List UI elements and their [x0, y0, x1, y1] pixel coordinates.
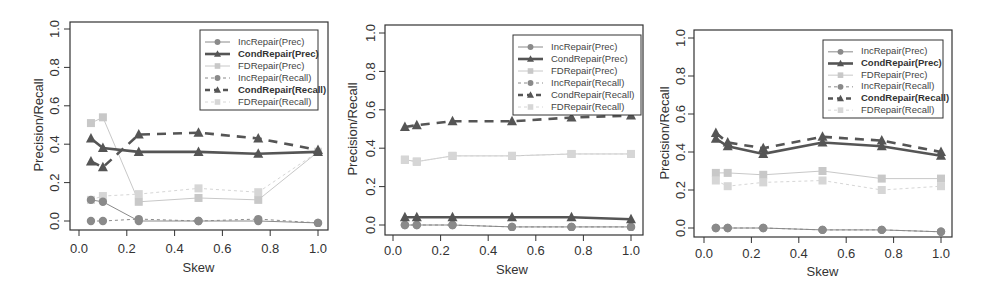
- data-point: [314, 219, 322, 227]
- chart-panel-2: 0.00.20.40.60.81.0Precision/Recall0.00.2…: [330, 0, 660, 296]
- legend-marker-icon: [838, 49, 844, 55]
- series-fdrepair-recall: [87, 148, 322, 204]
- data-point: [759, 178, 767, 186]
- data-point: [724, 224, 732, 232]
- x-tick-label: 0.4: [479, 243, 497, 258]
- legend-marker-icon: [528, 104, 534, 110]
- series-line: [716, 228, 941, 232]
- y-tick-label: 0.4: [47, 135, 62, 153]
- legend-label: FDRepair(Recall): [551, 101, 624, 112]
- data-point: [819, 167, 827, 175]
- x-tick-label: 0.8: [574, 243, 592, 258]
- y-tick-label: 0.6: [47, 97, 62, 115]
- data-point: [712, 224, 720, 232]
- legend-label: CondRepair(Prec): [238, 48, 319, 59]
- y-axis: 0.00.20.40.60.81.0Precision/Recall: [31, 20, 70, 230]
- data-point: [195, 184, 203, 192]
- data-point: [194, 217, 202, 225]
- y-tick-label: 0.6: [673, 105, 688, 123]
- data-point: [878, 226, 886, 234]
- y-tick-label: 0.8: [673, 67, 688, 85]
- y-tick-label: 0.0: [673, 219, 688, 237]
- x-tick-label: 0.8: [885, 246, 903, 261]
- x-tick-label: 0.0: [70, 241, 88, 256]
- legend-label: CondRepair(Prec): [551, 53, 628, 64]
- legend-label: FDRepair(Prec): [861, 69, 928, 80]
- x-axis-title: Skew: [807, 264, 839, 279]
- y-tick-label: 0.0: [363, 216, 378, 234]
- x-tick-label: 0.6: [213, 241, 231, 256]
- data-point: [401, 156, 409, 164]
- data-point: [819, 177, 827, 185]
- data-point: [135, 198, 143, 206]
- legend: IncRepair(Prec)CondRepair(Prec)FDRepair(…: [513, 35, 641, 115]
- data-point: [508, 152, 516, 160]
- data-point: [449, 152, 457, 160]
- data-point: [627, 150, 635, 158]
- x-tick-label: 0.0: [384, 243, 402, 258]
- legend-label: IncRepair(Recall): [238, 72, 311, 83]
- y-tick-label: 1.0: [47, 20, 62, 38]
- x-axis-title: Skew: [183, 260, 215, 275]
- series-fdrepair-prec: [87, 113, 322, 205]
- series-line: [91, 152, 318, 200]
- data-point: [195, 194, 203, 202]
- x-tick-label: 0.2: [118, 241, 136, 256]
- data-point: [759, 171, 767, 179]
- data-point: [568, 150, 576, 158]
- x-tick-label: 1.0: [622, 243, 640, 258]
- y-axis: 0.00.20.40.60.81.0Precision/Recall: [345, 24, 385, 234]
- x-tick-label: 1.0: [932, 246, 950, 261]
- series-condrepair-recall: [86, 127, 323, 171]
- data-point: [508, 223, 516, 231]
- y-tick-label: 0.6: [363, 101, 378, 119]
- data-point: [712, 177, 720, 185]
- x-tick-label: 0.6: [527, 243, 545, 258]
- legend-label: CondRepair(Recall): [861, 92, 949, 103]
- x-tick-label: 0.6: [837, 246, 855, 261]
- data-point: [937, 228, 945, 236]
- legend-label: FDRepair(Prec): [551, 65, 618, 76]
- series-increpair-prec: [401, 221, 635, 231]
- legend-label: IncRepair(Prec): [551, 41, 618, 52]
- data-point: [86, 133, 96, 143]
- line-chart-2: 0.00.20.40.60.81.0Precision/Recall0.00.2…: [330, 0, 660, 296]
- legend-label: FDRepair(Recall): [238, 96, 311, 107]
- line-chart-1: 0.00.20.40.60.81.0Precision/Recall0.00.2…: [0, 0, 330, 296]
- series-line: [405, 154, 631, 162]
- series-increpair-prec: [87, 196, 322, 227]
- data-point: [254, 188, 262, 196]
- legend: IncRepair(Prec)CondRepair(Prec)FDRepair(…: [200, 30, 326, 110]
- legend-label: IncRepair(Recall): [551, 77, 624, 88]
- data-point: [87, 217, 95, 225]
- chart-panel-3: 0.00.20.40.60.81.0Precision/Recall0.00.2…: [660, 0, 990, 296]
- data-point: [413, 221, 421, 229]
- data-point: [99, 217, 107, 225]
- x-tick-label: 0.0: [695, 246, 713, 261]
- legend-label: CondRepair(Recall): [551, 89, 634, 100]
- legend-label: FDRepair(Recall): [861, 104, 934, 115]
- series-increpair-prec: [712, 224, 946, 236]
- data-point: [724, 182, 732, 190]
- x-tick-label: 1.0: [309, 241, 327, 256]
- data-point: [254, 215, 262, 223]
- legend-marker-icon: [838, 107, 844, 113]
- data-point: [724, 169, 732, 177]
- series-line: [716, 181, 941, 191]
- x-axis: 0.00.20.40.60.81.0Skew: [70, 230, 327, 275]
- y-tick-label: 0.8: [47, 58, 62, 76]
- series-line: [716, 171, 941, 179]
- data-point: [401, 221, 409, 229]
- data-point: [878, 186, 886, 194]
- y-tick-label: 0.4: [363, 139, 378, 157]
- series-increpair-recall: [401, 221, 635, 231]
- legend-marker-icon: [528, 80, 534, 86]
- data-point: [567, 223, 575, 231]
- legend-marker-icon: [215, 75, 221, 81]
- series-fdrepair-prec: [712, 167, 945, 183]
- x-tick-label: 0.8: [261, 241, 279, 256]
- y-tick-label: 1.0: [673, 29, 688, 47]
- y-tick-label: 0.8: [363, 62, 378, 80]
- y-tick-label: 0.0: [47, 212, 62, 230]
- data-point: [135, 215, 143, 223]
